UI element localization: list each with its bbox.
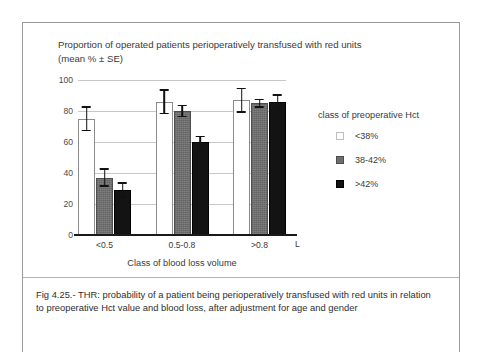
chart-title: Proportion of operated patients perioper… — [58, 38, 388, 65]
error-bar-cap — [237, 111, 246, 113]
y-axis-tick-label: 80 — [63, 106, 73, 116]
error-bar-cap — [160, 113, 169, 115]
legend-item: 38-42% — [336, 155, 448, 165]
error-bar — [181, 105, 183, 117]
bar-slot — [114, 80, 131, 235]
bar-slot — [233, 80, 250, 235]
bar-slot — [269, 80, 286, 235]
y-axis-tick-label: 100 — [59, 75, 73, 85]
error-bar-cap — [196, 147, 205, 149]
legend-item: <38% — [336, 131, 448, 141]
error-bar-cap — [100, 185, 109, 187]
bar-slot — [156, 80, 173, 235]
legend: class of preoperative Hct <38%38-42%>42% — [318, 110, 448, 203]
x-axis-line — [74, 234, 297, 237]
error-bar — [277, 94, 279, 110]
chart-title-line1: Proportion of operated patients perioper… — [58, 39, 361, 50]
y-axis-tick-label: 20 — [63, 199, 73, 209]
black-swatch-icon — [336, 180, 344, 188]
stray-axis-label: L — [295, 239, 300, 249]
error-bar-cap — [237, 88, 246, 90]
chart-title-line2: (mean % ± SE) — [58, 53, 123, 64]
grey-swatch-icon — [336, 156, 344, 164]
bar — [192, 142, 209, 235]
caption-separator — [23, 277, 459, 278]
bar — [251, 103, 268, 235]
error-bar-cap — [273, 94, 282, 96]
legend-items: <38%38-42%>42% — [318, 131, 448, 189]
x-axis-title: Class of blood loss volume — [78, 258, 286, 268]
bar — [174, 111, 191, 235]
error-bar-cap — [100, 168, 109, 170]
error-bar — [104, 168, 106, 187]
bar-group: >0.8 — [233, 80, 286, 235]
error-bar-cap — [118, 196, 127, 198]
bar-slot — [251, 80, 268, 235]
legend-item-label: <38% — [355, 131, 378, 141]
error-bar-cap — [118, 182, 127, 184]
error-bar-cap — [82, 106, 91, 108]
y-axis-tick-label: 40 — [63, 168, 73, 178]
legend-title: class of preoperative Hct — [318, 110, 448, 120]
error-bar — [163, 89, 165, 114]
y-axis-tick-label: 0 — [68, 230, 73, 240]
bar — [78, 119, 95, 235]
bar — [156, 102, 173, 235]
y-axis-tick-label: 60 — [63, 137, 73, 147]
error-bar-cap — [82, 130, 91, 132]
error-bar — [86, 106, 88, 131]
error-bar — [241, 88, 243, 113]
error-bar — [122, 182, 124, 198]
legend-item: >42% — [336, 179, 448, 189]
figure-caption: Fig 4.25.- THR: probability of a patient… — [36, 288, 440, 314]
bar-slot — [78, 80, 95, 235]
error-bar — [199, 136, 201, 148]
error-bar-cap — [160, 89, 169, 91]
bar — [233, 100, 250, 235]
error-bar — [259, 99, 261, 108]
x-axis-tick-label: <0.5 — [96, 240, 113, 250]
bar-slot — [96, 80, 113, 235]
legend-item-label: >42% — [355, 179, 378, 189]
error-bar-cap — [178, 105, 187, 107]
white-swatch-icon — [336, 132, 344, 140]
x-axis-tick-label: >0.8 — [251, 240, 268, 250]
error-bar-cap — [196, 136, 205, 138]
bar-slot — [192, 80, 209, 235]
bar-slot — [174, 80, 191, 235]
bar-groups: <0.50.5-0.8>0.8 — [78, 80, 286, 235]
x-axis-tick-label: 0.5-0.8 — [169, 240, 196, 250]
error-bar-cap — [273, 108, 282, 110]
bar — [269, 102, 286, 235]
bar-group: 0.5-0.8 — [156, 80, 209, 235]
error-bar-cap — [178, 116, 187, 118]
legend-item-label: 38-42% — [355, 155, 386, 165]
error-bar-cap — [255, 99, 264, 101]
bar-group: <0.5 — [78, 80, 131, 235]
error-bar-cap — [255, 106, 264, 108]
plot-area: 020406080100 <0.50.5-0.8>0.8 — [78, 80, 286, 235]
